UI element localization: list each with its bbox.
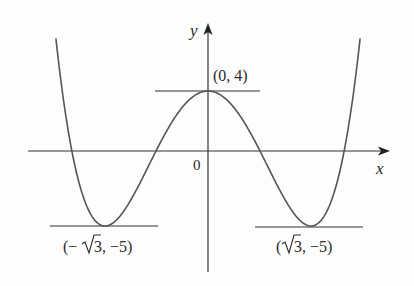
svg-text:3, −5): 3, −5) xyxy=(94,238,132,256)
svg-text:(: ( xyxy=(276,238,281,256)
svg-text:3, −5): 3, −5) xyxy=(294,238,332,256)
x-axis-label: x xyxy=(375,159,384,178)
left-min-label: (− 3, −5) xyxy=(63,235,132,256)
origin-label: 0 xyxy=(193,157,201,173)
max-point-label: (0, 4) xyxy=(213,67,248,85)
svg-text:(−: (− xyxy=(63,238,77,256)
right-min-label: ( 3, −5) xyxy=(276,235,332,256)
function-graph: y x 0 (0, 4) (− 3, −5) ( 3, −5) xyxy=(0,0,414,286)
y-axis-label: y xyxy=(188,21,198,40)
